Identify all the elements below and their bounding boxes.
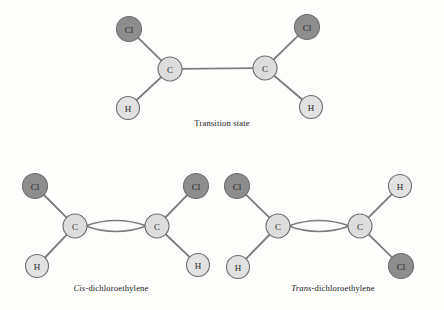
atom-cl-icon [225,174,250,199]
caption-trans-dichloroethylene: Trans-dichloroethylene [228,283,438,293]
atom-c-icon [158,57,182,81]
atom-cl-icon [184,174,209,199]
caption-transition-state: Transition state [0,118,444,128]
single-bond [164,194,188,219]
single-bond [273,75,303,101]
single-bond [245,194,271,219]
single-bond [137,37,163,62]
single-bond [368,233,394,258]
caption-prefix: Cis [73,283,85,293]
atom-c-icon [253,56,277,80]
double-bond [289,221,350,232]
atom-cl-icon [23,174,48,199]
double-bond [86,221,147,232]
atom-c-icon [145,214,169,238]
single-bond [165,233,191,258]
single-bond [367,193,393,219]
atom-h-icon [117,97,140,120]
atom-cl-icon [117,17,142,42]
single-bond [44,234,68,259]
single-bond [273,35,300,61]
caption-text: -dichloroethylene [312,283,375,293]
single-bond [43,194,68,219]
atom-c-icon [266,214,290,238]
atom-c-icon [348,214,372,238]
molecule-trans-dichloroethylene: ClCHCHCl [225,174,414,279]
caption-text: -dichloroethylene [85,283,148,293]
chemistry-figure: ClCHCClHClCHCClHClCHCHCl Transition stat… [0,0,444,310]
caption-text: Transition state [194,118,249,128]
atom-h-icon [187,254,210,277]
molecule-transition-state: ClCHCClH [117,15,323,120]
caption-prefix: Trans [291,283,311,293]
atom-h-icon [26,255,49,278]
single-bond [180,68,254,69]
atom-c-icon [63,214,87,238]
atom-h-icon [227,256,250,279]
atom-h-icon [300,96,323,119]
molecule-cis-dichloroethylene: ClCHCClH [23,174,210,278]
atom-cl-icon [295,15,320,40]
single-bond [135,76,162,101]
atom-cl-icon [389,254,414,279]
caption-cis-dichloroethylene: Cis-dichloroethylene [6,283,216,293]
molecule-canvas: ClCHCClHClCHCClHClCHCHCl [0,0,444,310]
atom-h-icon [389,175,412,198]
single-bond [245,234,271,260]
